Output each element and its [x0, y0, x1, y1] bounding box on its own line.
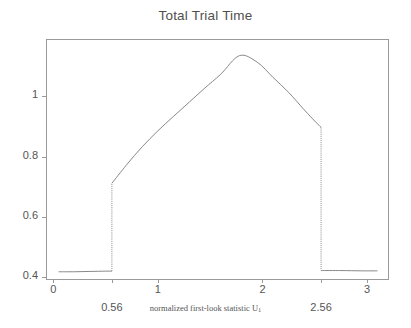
y-tick-label-2: 0.8 [4, 149, 38, 161]
x-tick-label-2: 1 [138, 283, 178, 295]
plot-frame [47, 40, 389, 280]
series-segment-main-arc [112, 55, 321, 183]
x-tick-label-5: 3 [347, 283, 387, 295]
chart-figure: Total Trial Time 0.40.60.81 00.56122.563… [0, 0, 411, 328]
y-tick-label-3: 1 [4, 88, 38, 100]
plot-area [0, 0, 411, 328]
x-tick-label-3: 2 [242, 283, 282, 295]
y-tick-label-0: 0.4 [4, 269, 38, 281]
x-axis-title-subscript: 1 [258, 306, 261, 313]
chart-title: Total Trial Time [0, 8, 411, 23]
series-segment-left-plateau [59, 271, 112, 272]
x-axis-title: normalized first-look statistic U1 [0, 303, 411, 313]
x-tick-label-0: 0 [33, 283, 73, 295]
y-tick-label-1: 0.6 [4, 209, 38, 221]
x-axis-title-text: normalized first-look statistic U [150, 303, 258, 313]
